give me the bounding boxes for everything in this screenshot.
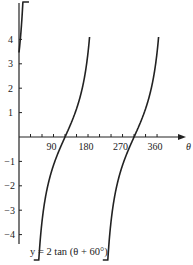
y-tick-label: 1 bbox=[8, 107, 13, 118]
y-tick-label: 3 bbox=[8, 58, 13, 69]
y-tick-label: 4 bbox=[8, 34, 13, 45]
y-tick-label: −1 bbox=[4, 156, 15, 167]
x-tick-label: 360 bbox=[148, 141, 163, 152]
x-tick-label: 180 bbox=[79, 141, 94, 152]
curve-branch bbox=[19, 2, 29, 52]
curves bbox=[19, 2, 159, 260]
y-tick-label: 2 bbox=[8, 83, 13, 94]
y-tick-label: −2 bbox=[4, 180, 15, 191]
x-tick-label: 90 bbox=[47, 141, 57, 152]
y-tick-label: −3 bbox=[4, 205, 15, 216]
chart-canvas: 90180270360 −4−3−2−11234 θ bbox=[0, 0, 193, 265]
chart-caption: y = 2 tan (θ + 60°) bbox=[30, 246, 108, 257]
y-tick-label: −4 bbox=[4, 229, 15, 240]
x-axis-arrow-icon bbox=[178, 134, 186, 140]
x-axis-label: θ bbox=[186, 141, 191, 152]
x-tick-label: 270 bbox=[113, 141, 128, 152]
